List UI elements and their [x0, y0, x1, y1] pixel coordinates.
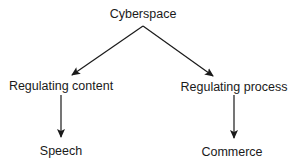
- edge-cyberspace-to-regulating-process: [143, 26, 213, 76]
- edge-cyberspace-to-regulating-content: [72, 26, 143, 75]
- node-regulating-content: Regulating content: [9, 79, 113, 93]
- node-cyberspace: Cyberspace: [110, 7, 177, 21]
- node-regulating-process: Regulating process: [180, 80, 287, 94]
- diagram-canvas: Cyberspace Regulating content Regulating…: [0, 0, 298, 166]
- node-commerce: Commerce: [201, 145, 262, 159]
- node-speech: Speech: [40, 144, 82, 158]
